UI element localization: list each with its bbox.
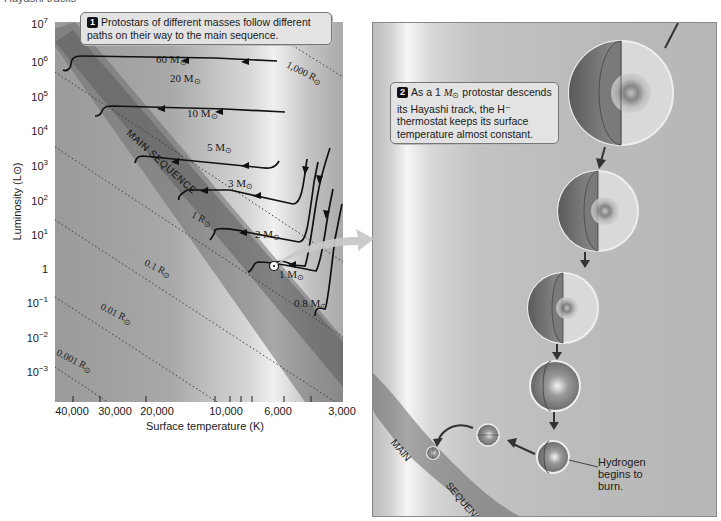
protostar-stage-4 xyxy=(530,361,580,411)
protostar-stage-2 xyxy=(558,171,638,251)
hydrogen-leader-line xyxy=(569,460,598,467)
y-tick: 103 xyxy=(0,157,48,172)
arrow-5-6 xyxy=(507,438,535,454)
callout-step-2: 2As a 1 M⊙ protostar descends its Hayash… xyxy=(390,82,559,144)
y-tick: 106 xyxy=(0,53,48,68)
x-tick: 20,000 xyxy=(127,405,187,417)
x-axis-label: Surface temperature (K) xyxy=(120,420,290,432)
mass-label-20: 20 M⊙ xyxy=(170,72,201,86)
protostar-stage-5-hydrogen-burning xyxy=(537,441,598,473)
arrow-3-4 xyxy=(552,344,562,360)
mass-label-0-8: 0.8 M⊙ xyxy=(294,297,327,311)
y-tick: 101 xyxy=(0,226,48,241)
y-tick: 104 xyxy=(0,122,48,137)
callout-text: Protostars of different masses follow di… xyxy=(87,16,311,41)
x-tick: 3,000 xyxy=(312,405,372,417)
protostar-stage-1 xyxy=(569,41,673,145)
mass-label-10: 10 M⊙ xyxy=(187,107,218,121)
y-tick: 10−2 xyxy=(0,329,48,344)
y-tick: 1 xyxy=(0,260,48,275)
y-axis-label: Luminosity (L⊙) xyxy=(11,147,24,257)
step-number-badge: 1 xyxy=(87,17,98,28)
step-number-badge: 2 xyxy=(397,87,408,98)
x-tick: 6,000 xyxy=(248,405,308,417)
arrow-1-2 xyxy=(596,147,606,169)
figure-caption: Hayashi tracks xyxy=(4,0,76,4)
hydrogen-burn-label: Hydrogen begins to burn. xyxy=(598,456,658,492)
y-tick: 10−3 xyxy=(0,363,48,378)
arrow-4-5 xyxy=(549,412,559,430)
track-line xyxy=(665,23,678,48)
x-tick: 10,000 xyxy=(196,405,256,417)
mass-label-3: 3 M⊙ xyxy=(228,177,253,191)
arrow-2-3 xyxy=(580,252,590,268)
star-on-main-sequence xyxy=(427,447,440,460)
y-tick: 102 xyxy=(0,192,48,207)
protostar-stage-3 xyxy=(528,273,598,343)
x-ticks xyxy=(73,396,311,402)
y-tick: 10−1 xyxy=(0,294,48,309)
protostar-stage-6 xyxy=(477,424,499,446)
callout-step-1: 1Protostars of different masses follow d… xyxy=(80,12,332,45)
mass-label-60: 60 M⊙ xyxy=(156,53,187,67)
y-tick: 107 xyxy=(0,15,48,30)
zoom-connector-arrow xyxy=(270,225,390,285)
y-tick: 105 xyxy=(0,88,48,103)
arrow-6-7 xyxy=(438,425,473,441)
mass-label-5: 5 M⊙ xyxy=(207,141,232,155)
